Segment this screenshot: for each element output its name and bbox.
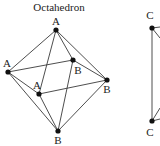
label-front: A xyxy=(33,79,41,91)
edge-top-back xyxy=(56,30,73,60)
vertex-top xyxy=(53,27,58,32)
label-back: B xyxy=(74,64,81,76)
second-figure-partial: C C xyxy=(146,9,160,138)
edge-bottom-back xyxy=(58,60,73,131)
vertex-bottom xyxy=(55,128,60,133)
label-bottom: B xyxy=(54,134,61,146)
octahedron-labels: A A B A B B xyxy=(3,15,111,146)
vertex-front xyxy=(36,91,41,96)
edge-bottom-right xyxy=(58,80,107,131)
label-c-top: C xyxy=(146,9,153,21)
edge-right-front xyxy=(39,80,107,94)
vertex-left xyxy=(5,69,10,74)
label-c-bottom: C xyxy=(146,126,153,138)
figure-title: Octahedron xyxy=(33,1,85,13)
octahedron-vertices xyxy=(5,27,109,133)
edge-left-back xyxy=(8,60,73,72)
vertex-c-top xyxy=(149,25,154,30)
vertex-c-bottom xyxy=(149,118,154,123)
vertex-right xyxy=(104,77,109,82)
label-right: B xyxy=(103,83,110,95)
label-top: A xyxy=(52,15,60,27)
edge-top-front xyxy=(39,30,56,94)
octahedron-diagram: Octahedron A A B A B B xyxy=(0,0,160,146)
label-left: A xyxy=(3,57,11,69)
octahedron-edges xyxy=(8,30,107,131)
edge-top-left xyxy=(8,30,56,72)
vertex-back xyxy=(70,57,75,62)
